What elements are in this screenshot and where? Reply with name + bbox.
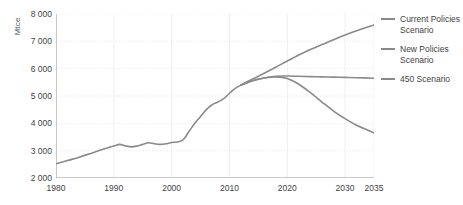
legend-label: Current Policies Scenario (400, 14, 463, 35)
legend-line-swatch (381, 48, 395, 50)
y-axis-tick: 8 000 (18, 9, 52, 19)
legend-line-swatch (381, 18, 395, 20)
plot-area (56, 14, 374, 178)
y-axis-tick: 2 000 (18, 173, 52, 183)
x-axis-tick: 2010 (220, 183, 239, 193)
x-axis-tick: 2000 (162, 183, 181, 193)
y-axis-tick: 7 000 (18, 36, 52, 46)
y-axis-tick-group: 2 0003 0004 0005 0006 0007 0008 000 (12, 0, 52, 205)
series-line-historical (56, 85, 241, 164)
x-axis-tick: 2035 (365, 183, 384, 193)
legend: Current Policies ScenarioNew Policies Sc… (381, 14, 463, 94)
legend-line-swatch (381, 78, 395, 80)
legend-item[interactable]: Current Policies Scenario (381, 14, 463, 35)
series-line-new-policies-scenario (241, 76, 374, 85)
y-axis-tick: 4 000 (18, 118, 52, 128)
legend-item[interactable]: 450 Scenario (381, 74, 463, 85)
y-axis-tick: 6 000 (18, 64, 52, 74)
y-axis-tick: 5 000 (18, 91, 52, 101)
legend-item[interactable]: New Policies Scenario (381, 44, 463, 65)
x-axis-tick: 1990 (104, 183, 123, 193)
series-line-450-scenario (241, 77, 374, 133)
legend-label: 450 Scenario (400, 74, 450, 85)
plot-svg (56, 14, 374, 178)
x-axis-tick: 2030 (336, 183, 355, 193)
x-axis-tick: 1980 (47, 183, 66, 193)
x-axis-tick: 2020 (278, 183, 297, 193)
legend-label: New Policies Scenario (400, 44, 463, 65)
y-axis-tick: 3 000 (18, 146, 52, 156)
line-chart: Mtce 2 0003 0004 0005 0006 0007 0008 000… (0, 0, 463, 205)
